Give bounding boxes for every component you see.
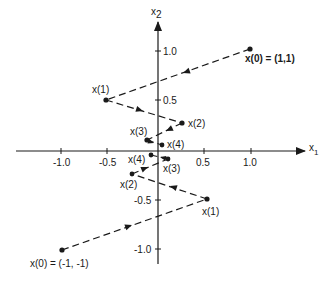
x-tick-label: 1.0 — [243, 157, 257, 168]
point-lower-x0 — [59, 247, 64, 252]
phase-plane-diagram: -1.0 -0.5 0.5 1.0 1.0 0.5 -0.5 -1.0 x1 x… — [0, 0, 332, 281]
label-lower-x0: x(0) = (-1, -1) — [30, 258, 89, 269]
x-tick-label: -0.5 — [99, 157, 117, 168]
point-upper-x0 — [247, 46, 252, 51]
arrow-icon — [135, 106, 143, 114]
label-lower-x3: x(3) — [163, 163, 180, 174]
upper-trajectory — [106, 49, 250, 145]
y-tick-label: -0.5 — [134, 195, 152, 206]
label-upper-x3: x(3) — [130, 126, 147, 137]
arrow-icon — [140, 164, 149, 172]
y-tick-label: -1.0 — [134, 244, 152, 255]
x2-axis-label: x2 — [151, 6, 162, 20]
point-upper-x3 — [144, 137, 149, 142]
trajectory-points — [59, 46, 252, 252]
label-lower-x4: x(4) — [128, 154, 145, 165]
arrow-icon — [159, 155, 166, 161]
label-upper-x2: x(2) — [188, 118, 205, 129]
label-upper-x0: x(0) = (1,1) — [245, 53, 295, 64]
point-lower-x3 — [166, 157, 171, 162]
arrow-icon — [124, 222, 133, 230]
x-tick-label: 0.5 — [196, 157, 210, 168]
label-lower-x2: x(2) — [120, 179, 137, 190]
point-lower-x4 — [149, 153, 154, 158]
x1-axis-label: x1 — [309, 142, 319, 157]
y-tick-label: 1.0 — [163, 46, 177, 57]
point-lower-x2 — [130, 172, 135, 177]
label-upper-x4: x(4) — [167, 139, 184, 150]
label-lower-x1: x(1) — [202, 206, 219, 217]
label-upper-x1: x(1) — [92, 84, 109, 95]
point-upper-x1 — [103, 97, 108, 102]
point-upper-x4 — [160, 143, 165, 148]
y-tick-label: 0.5 — [163, 95, 177, 106]
arrow-icon — [165, 125, 174, 133]
x-tick-label: -1.0 — [53, 157, 71, 168]
point-upper-x2 — [179, 120, 184, 125]
point-lower-x1 — [204, 196, 209, 201]
arrow-icon — [182, 68, 191, 76]
